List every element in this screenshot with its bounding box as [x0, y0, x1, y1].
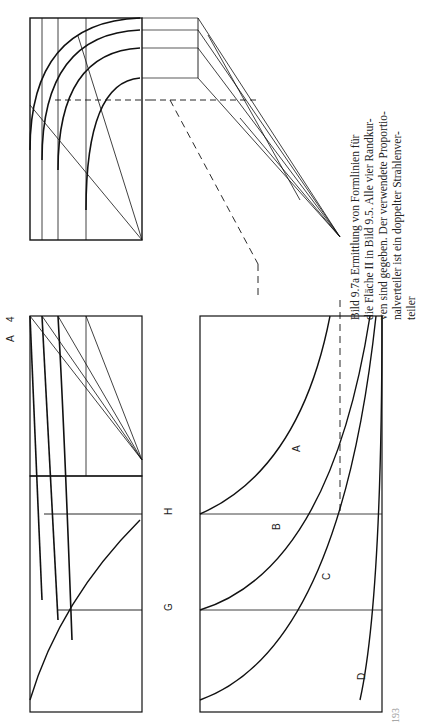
- curve-4: [30, 18, 140, 150]
- svg-text:4: 4: [5, 316, 16, 322]
- caption-line: die Fläche II in Bild 9.5. Alle vier Ran…: [362, 20, 376, 320]
- svg-text:A: A: [5, 335, 16, 342]
- svg-text:H: H: [163, 508, 174, 515]
- figure-caption: Bild 9.7a Ermittlung von Formlinien für …: [348, 20, 428, 320]
- svg-text:C: C: [321, 573, 332, 580]
- caption-line: teiler: [404, 20, 418, 320]
- svg-text:G: G: [163, 603, 174, 611]
- curve-D: [360, 316, 382, 700]
- caption-line: nalverteiler ist ein doppelter Strahlenv…: [390, 20, 404, 320]
- curve-A: [200, 316, 330, 514]
- caption-line: Bild 9.7a Ermittlung von Formlinien für: [348, 20, 362, 320]
- curve-C: [200, 316, 376, 700]
- caption-line: ven sind gegeben. Der verwendete Proport…: [376, 20, 390, 320]
- svg-text:A: A: [291, 445, 302, 452]
- labels: A 4 H G A B C D: [5, 316, 367, 680]
- page-number: 193: [390, 708, 401, 723]
- svg-text:B: B: [271, 523, 282, 530]
- svg-text:D: D: [356, 673, 367, 680]
- curve-B: [200, 316, 370, 610]
